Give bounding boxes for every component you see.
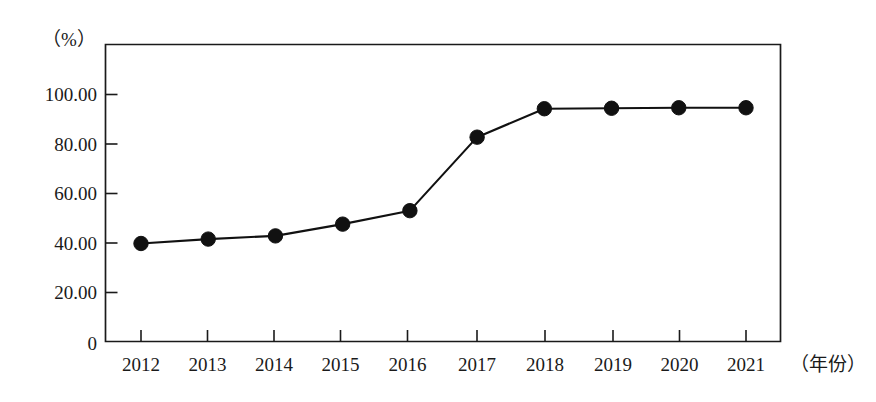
x-tick-label-2012: 2012 bbox=[122, 354, 160, 375]
y-tick-label-80: 80.00 bbox=[54, 134, 97, 155]
data-point-2015 bbox=[335, 217, 349, 231]
x-tick-label-2017: 2017 bbox=[458, 354, 496, 375]
x-tick-label-2015: 2015 bbox=[322, 354, 360, 375]
x-tick-label-2014: 2014 bbox=[255, 354, 294, 375]
data-point-2016 bbox=[403, 203, 417, 217]
data-point-2012 bbox=[134, 236, 148, 250]
y-tick-label-40: 40.00 bbox=[54, 233, 97, 254]
x-tick-label-2018: 2018 bbox=[526, 354, 564, 375]
y-tick-label-60: 60.00 bbox=[54, 183, 97, 204]
chart-canvas: 0 20.00 40.00 60.00 80.00 100.00 2012 20… bbox=[0, 0, 876, 402]
data-point-2017 bbox=[470, 130, 484, 144]
data-point-2019 bbox=[604, 101, 618, 115]
x-tick-labels: 2012 2013 2014 2015 2016 2017 2018 2019 … bbox=[122, 354, 765, 375]
data-point-2021 bbox=[739, 101, 753, 115]
series-markers bbox=[134, 101, 753, 251]
line-chart: 0 20.00 40.00 60.00 80.00 100.00 2012 20… bbox=[0, 0, 876, 402]
series-group bbox=[134, 101, 753, 251]
y-tick-labels: 0 20.00 40.00 60.00 80.00 100.00 bbox=[45, 84, 97, 354]
x-axis-title: （年份） bbox=[790, 354, 866, 375]
y-tick-label-20: 20.00 bbox=[54, 282, 97, 303]
y-axis-title: （%） bbox=[42, 29, 96, 50]
x-tick-label-2016: 2016 bbox=[389, 354, 427, 375]
x-axis-ticks bbox=[141, 330, 746, 342]
y-tick-label-0: 0 bbox=[88, 333, 98, 354]
x-tick-label-2020: 2020 bbox=[661, 354, 699, 375]
data-point-2013 bbox=[201, 232, 215, 246]
data-point-2014 bbox=[268, 229, 282, 243]
plot-border bbox=[106, 45, 781, 342]
x-tick-label-2021: 2021 bbox=[727, 354, 765, 375]
x-tick-label-2019: 2019 bbox=[594, 354, 632, 375]
plot-frame bbox=[106, 45, 781, 342]
series-line bbox=[141, 108, 746, 244]
y-axis-ticks bbox=[106, 95, 118, 293]
data-point-2020 bbox=[672, 101, 686, 115]
y-tick-label-100: 100.00 bbox=[45, 84, 97, 105]
data-point-2018 bbox=[537, 102, 551, 116]
x-tick-label-2013: 2013 bbox=[189, 354, 227, 375]
